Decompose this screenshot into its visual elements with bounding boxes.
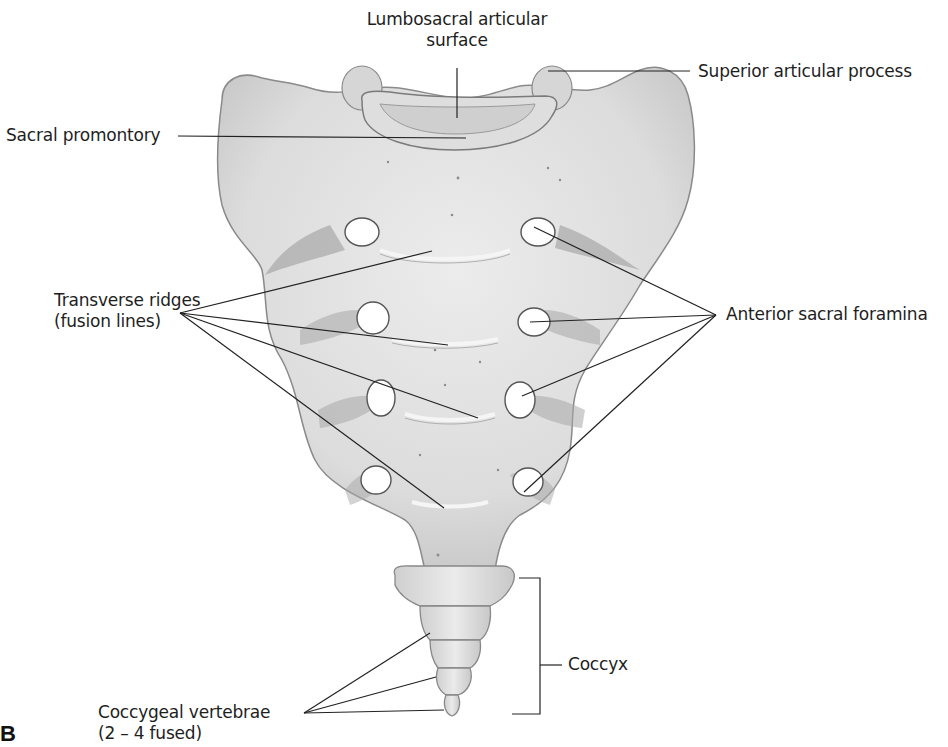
label-sacral-promontory: Sacral promontory (6, 125, 160, 146)
label-line-1: Lumbosacral articular (352, 9, 562, 30)
foramen-right-3 (505, 382, 535, 418)
label-line-2: surface (352, 30, 562, 51)
foramen-left-2 (357, 302, 389, 334)
label-anterior-sacral-foramina: Anterior sacral foramina (726, 304, 928, 325)
label-coccyx: Coccyx (568, 654, 628, 675)
coccyx-bones (394, 566, 514, 716)
panel-letter: B (0, 721, 16, 747)
sacrum-coccyx-diagram: Lumbosacral articular surface Superior a… (0, 0, 948, 747)
foramen-right-4 (513, 468, 543, 496)
label-superior-articular-process: Superior articular process (698, 61, 912, 82)
label-line-2: (fusion lines) (54, 311, 200, 332)
bone-illustration (0, 0, 948, 747)
foramen-left-3 (367, 380, 395, 416)
foramen-left-1 (345, 218, 379, 246)
label-transverse-ridges: Transverse ridges (fusion lines) (54, 290, 200, 332)
label-line-1: Coccygeal vertebrae (98, 702, 270, 723)
label-line-2: (2 – 4 fused) (98, 723, 270, 744)
foramen-left-4 (361, 466, 391, 494)
label-lumbosacral-articular-surface: Lumbosacral articular surface (352, 9, 562, 51)
label-coccygeal-vertebrae: Coccygeal vertebrae (2 – 4 fused) (98, 702, 270, 744)
foramen-right-1 (521, 218, 555, 246)
label-line-1: Transverse ridges (54, 290, 200, 311)
